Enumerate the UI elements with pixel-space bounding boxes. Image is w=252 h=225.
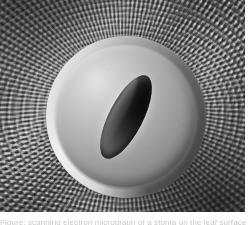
figure-caption: Figure: scanning electron micrograph of … (0, 218, 252, 225)
figure-root: Figure: scanning electron micrograph of … (0, 0, 252, 225)
figure-caption-text: Figure: scanning electron micrograph of … (0, 218, 252, 225)
sem-micrograph-image (0, 0, 245, 212)
stomatal-complex (38, 28, 214, 206)
